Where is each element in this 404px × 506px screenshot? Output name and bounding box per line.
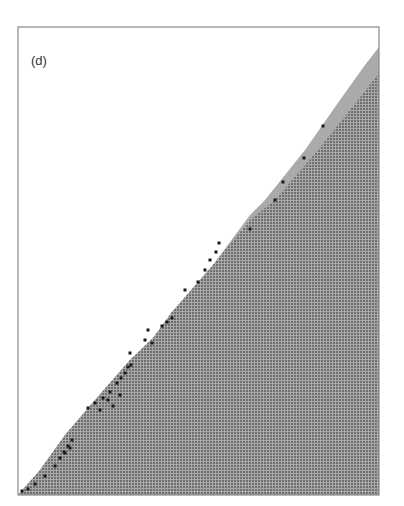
marker-dot xyxy=(27,488,30,491)
sparsity-plot xyxy=(0,0,404,506)
marker-dot xyxy=(21,490,24,493)
panel-label: (d) xyxy=(31,53,47,68)
marker-dot xyxy=(144,339,147,342)
marker-dot xyxy=(215,251,218,254)
marker-dot xyxy=(161,325,164,328)
marker-dot xyxy=(197,281,200,284)
marker-dot xyxy=(94,402,97,405)
marker-dot xyxy=(151,342,154,345)
marker-dot xyxy=(99,409,102,412)
marker-dot xyxy=(116,382,119,385)
marker-dot xyxy=(124,372,127,375)
marker-dot xyxy=(64,452,67,455)
marker-dot xyxy=(54,465,57,468)
marker-dot xyxy=(166,321,169,324)
marker-dot xyxy=(204,269,207,272)
marker-dot xyxy=(34,483,37,486)
marker-dot xyxy=(102,397,105,400)
marker-dot xyxy=(129,352,132,355)
marker-dot xyxy=(147,329,150,332)
marker-dot xyxy=(112,405,115,408)
marker-dot xyxy=(218,242,221,245)
marker-dot xyxy=(87,407,90,410)
marker-dot xyxy=(249,228,252,231)
marker-dot xyxy=(322,125,325,128)
marker-dot xyxy=(274,199,277,202)
marker-dot xyxy=(69,447,72,450)
marker-dot xyxy=(120,377,123,380)
marker-dot xyxy=(127,366,130,369)
figure-panel-d: (d) xyxy=(0,0,404,506)
marker-dot xyxy=(44,475,47,478)
marker-dot xyxy=(109,391,112,394)
marker-dot xyxy=(303,157,306,160)
marker-dot xyxy=(282,181,285,184)
marker-dot xyxy=(171,317,174,320)
marker-dot xyxy=(184,289,187,292)
marker-dot xyxy=(59,457,62,460)
marker-dot xyxy=(130,364,133,367)
marker-dot xyxy=(119,394,122,397)
marker-dot xyxy=(107,399,110,402)
marker-dot xyxy=(71,439,74,442)
marker-dot xyxy=(209,259,212,262)
